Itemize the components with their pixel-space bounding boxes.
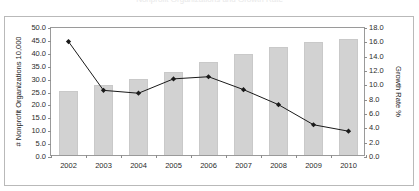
y-axis-left-title: # Nonprofit Organizations 10,000 [12,27,24,156]
y-axis-left-tick-label: 0.0 [36,153,46,161]
y-axis-right-title-text: Growth Rate % [394,66,403,117]
y-axis-left-tick-label: 20.0 [31,101,46,109]
y-axis-left-tick-label: 40.0 [31,50,46,58]
x-axis-tick-label: 2006 [200,161,217,170]
chart-title-clipped: Nonprofit Organizations and Growth Rate [0,0,419,6]
x-axis-tick [366,155,367,158]
y-axis-right-tick-label: 0.0 [369,153,379,161]
y-axis-right-tick-label: 10.0 [369,81,384,89]
y-axis-right-tick-label: 12.0 [369,67,384,75]
growth-rate-marker-2004 [136,91,141,96]
growth-rate-line-path [69,42,349,132]
y-axis-right-tick-label: 2.0 [369,139,379,147]
growth-rate-marker-2007 [241,87,246,92]
plot-area: 50.045.040.035.030.025.020.015.010.05.00… [50,27,365,156]
growth-rate-marker-2008 [276,102,281,107]
x-axis-tick-label: 2008 [270,161,287,170]
y-axis-left-tick-label: 15.0 [31,114,46,122]
y-axis-right-tick-label: 4.0 [369,124,379,132]
y-axis-left-tick-label: 45.0 [31,37,46,45]
growth-rate-marker-2010 [346,129,351,134]
x-axis-tick-label: 2009 [305,161,322,170]
x-axis-tick-label: 2005 [165,161,182,170]
x-axis-tick-label: 2007 [235,161,252,170]
y-axis-left-tick-label: 35.0 [31,63,46,71]
growth-rate-marker-2006 [206,74,211,79]
x-axis-tick-label: 2003 [95,161,112,170]
growth-rate-marker-2009 [311,122,316,127]
y-axis-right-tick-label: 14.0 [369,53,384,61]
x-axis-tick-label: 2002 [60,161,77,170]
y-axis-left-title-text: # Nonprofit Organizations 10,000 [14,36,23,146]
y-axis-left-tick-label: 10.0 [31,127,46,135]
chart-figure: Nonprofit Organizations and Growth Rate … [0,0,419,191]
y-axis-right-tick-label: 16.0 [369,38,384,46]
growth-rate-line-svg [51,28,366,157]
x-axis-tick-label: 2004 [130,161,147,170]
y-axis-right-tick-label: 18.0 [369,24,384,32]
y-axis-left-tick-label: 25.0 [31,89,46,97]
y-axis-right-tick-label: 6.0 [369,110,379,118]
y-axis-left-tick-label: 5.0 [36,140,46,148]
growth-rate-marker-2005 [171,76,176,81]
y-axis-left-tick-label: 50.0 [31,24,46,32]
x-axis-tick-label: 2010 [340,161,357,170]
y-axis-right-tick-label: 8.0 [369,96,379,104]
line-series-layer [51,28,364,155]
y-axis-right-title: Growth Rate % [392,27,404,156]
y-axis-left-tick-label: 30.0 [31,76,46,84]
